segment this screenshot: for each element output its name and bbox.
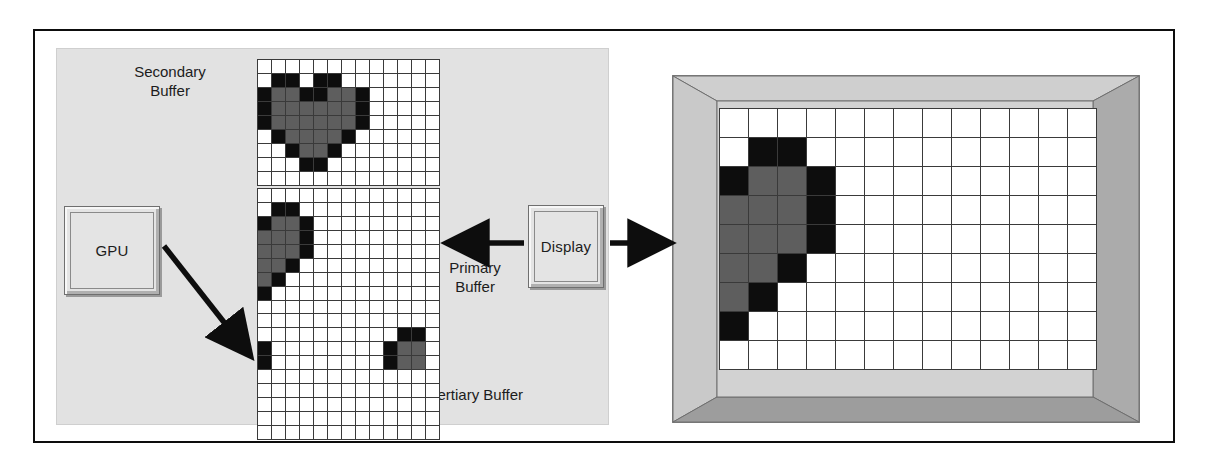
- pixel-cell: [398, 342, 412, 356]
- monitor[interactable]: [672, 75, 1140, 423]
- pixel-cell: [258, 102, 272, 116]
- pixel-cell: [258, 273, 272, 287]
- pixel-cell: [342, 130, 356, 144]
- pixel-cell: [1068, 283, 1097, 312]
- pixel-cell: [749, 283, 778, 312]
- pixel-cell: [258, 74, 272, 88]
- pixel-cell: [749, 167, 778, 196]
- pixel-cell: [272, 74, 286, 88]
- pixel-cell: [384, 328, 398, 342]
- pixel-cell: [342, 342, 356, 356]
- pixel-cell: [412, 116, 426, 130]
- pixel-cell: [314, 203, 328, 217]
- pixel-cell: [342, 158, 356, 172]
- pixel-cell: [778, 283, 807, 312]
- pixel-cell: [836, 341, 865, 370]
- pixel-cell: [328, 231, 342, 245]
- pixel-cell: [384, 412, 398, 426]
- pixel-cell: [342, 245, 356, 259]
- pixel-cell: [370, 116, 384, 130]
- pixel-cell: [398, 231, 412, 245]
- pixel-cell: [398, 328, 412, 342]
- pixel-cell: [398, 88, 412, 102]
- pixel-cell: [894, 312, 923, 341]
- pixel-cell: [720, 225, 749, 254]
- secondary-buffer-grid: [257, 59, 440, 186]
- pixel-cell: [1010, 138, 1039, 167]
- pixel-cell: [300, 384, 314, 398]
- pixel-cell: [356, 88, 370, 102]
- pixel-cell: [398, 203, 412, 217]
- pixel-cell: [314, 189, 328, 203]
- pixel-cell: [258, 203, 272, 217]
- pixel-cell: [1010, 254, 1039, 283]
- pixel-cell: [342, 189, 356, 203]
- pixel-cell: [1039, 283, 1068, 312]
- pixel-cell: [258, 116, 272, 130]
- pixel-cell: [952, 138, 981, 167]
- pixel-cell: [314, 356, 328, 370]
- pixel-cell: [370, 273, 384, 287]
- pixel-cell: [894, 225, 923, 254]
- pixel-cell: [384, 102, 398, 116]
- pixel-cell: [412, 426, 426, 440]
- pixel-cell: [314, 172, 328, 186]
- pixel-cell: [314, 116, 328, 130]
- pixel-cell: [356, 217, 370, 231]
- pixel-cell: [807, 283, 836, 312]
- pixel-cell: [398, 172, 412, 186]
- pixel-cell: [342, 384, 356, 398]
- pixel-cell: [286, 328, 300, 342]
- pixel-cell: [1039, 196, 1068, 225]
- display-box[interactable]: Display: [528, 205, 604, 288]
- pixel-cell: [314, 102, 328, 116]
- pixel-cell: [272, 273, 286, 287]
- pixel-cell: [286, 88, 300, 102]
- pixel-cell: [1039, 138, 1068, 167]
- pixel-cell: [314, 74, 328, 88]
- pixel-cell: [314, 217, 328, 231]
- pixel-cell: [412, 88, 426, 102]
- pixel-cell: [314, 88, 328, 102]
- pixel-cell: [356, 130, 370, 144]
- pixel-cell: [370, 130, 384, 144]
- pixel-cell: [836, 312, 865, 341]
- pixel-cell: [398, 60, 412, 74]
- pixel-cell: [1010, 225, 1039, 254]
- pixel-cell: [314, 342, 328, 356]
- pixel-cell: [426, 273, 440, 287]
- pixel-cell: [1039, 341, 1068, 370]
- gpu-box-label: GPU: [95, 242, 128, 259]
- pixel-cell: [981, 283, 1010, 312]
- pixel-cell: [342, 74, 356, 88]
- pixel-cell: [258, 60, 272, 74]
- pixel-cell: [749, 341, 778, 370]
- pixel-cell: [272, 287, 286, 301]
- gpu-box[interactable]: GPU: [64, 206, 160, 295]
- pixel-cell: [272, 60, 286, 74]
- pixel-cell: [981, 167, 1010, 196]
- pixel-cell: [426, 328, 440, 342]
- pixel-cell: [328, 102, 342, 116]
- pixel-cell: [328, 398, 342, 412]
- pixel-cell: [398, 102, 412, 116]
- pixel-cell: [286, 259, 300, 273]
- pixel-cell: [286, 102, 300, 116]
- pixel-cell: [923, 283, 952, 312]
- pixel-cell: [981, 138, 1010, 167]
- pixel-cell: [426, 189, 440, 203]
- pixel-cell: [778, 196, 807, 225]
- pixel-cell: [314, 158, 328, 172]
- pixel-cell: [384, 287, 398, 301]
- pixel-cell: [426, 144, 440, 158]
- pixel-cell: [286, 384, 300, 398]
- pixel-cell: [398, 74, 412, 88]
- pixel-cell: [314, 384, 328, 398]
- secondary-buffer-label: Secondary Buffer: [100, 62, 240, 100]
- pixel-cell: [300, 287, 314, 301]
- pixel-cell: [923, 341, 952, 370]
- pixel-cell: [398, 370, 412, 384]
- pixel-cell: [258, 356, 272, 370]
- pixel-cell: [426, 203, 440, 217]
- pixel-cell: [370, 398, 384, 412]
